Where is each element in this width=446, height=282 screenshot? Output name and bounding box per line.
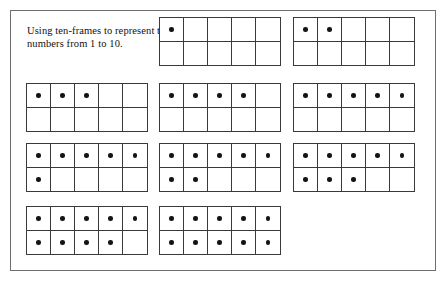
- dot-cell-filled[interactable]: [256, 231, 280, 254]
- dot-cell-filled[interactable]: [294, 18, 318, 41]
- ten-frame-2[interactable]: [293, 17, 415, 66]
- dot-cell-filled[interactable]: [342, 84, 366, 107]
- dot-cell-filled[interactable]: [318, 168, 342, 191]
- dot-cell-filled[interactable]: [184, 207, 208, 230]
- dot-cell-empty[interactable]: [232, 42, 256, 65]
- dot-cell-filled[interactable]: [232, 144, 256, 167]
- dot-cell-empty[interactable]: [342, 18, 366, 41]
- dot-cell-empty[interactable]: [160, 108, 184, 131]
- dot-cell-empty[interactable]: [366, 18, 390, 41]
- ten-frame-7[interactable]: [159, 143, 281, 192]
- dot-cell-empty[interactable]: [390, 168, 414, 191]
- dot-cell-filled[interactable]: [75, 84, 99, 107]
- dot-cell-filled[interactable]: [208, 231, 232, 254]
- ten-frame-8[interactable]: [293, 143, 415, 192]
- dot-cell-filled[interactable]: [184, 144, 208, 167]
- dot-cell-empty[interactable]: [75, 108, 99, 131]
- dot-cell-empty[interactable]: [342, 108, 366, 131]
- dot-cell-filled[interactable]: [27, 84, 51, 107]
- ten-frame-9[interactable]: [26, 206, 148, 255]
- dot-cell-empty[interactable]: [366, 168, 390, 191]
- dot-cell-filled[interactable]: [256, 144, 280, 167]
- dot-cell-empty[interactable]: [27, 108, 51, 131]
- dot-cell-filled[interactable]: [27, 207, 51, 230]
- ten-frame-10[interactable]: [159, 206, 281, 255]
- dot-cell-empty[interactable]: [232, 168, 256, 191]
- dot-cell-filled[interactable]: [184, 231, 208, 254]
- dot-cell-empty[interactable]: [184, 42, 208, 65]
- dot-cell-filled[interactable]: [342, 144, 366, 167]
- dot-cell-empty[interactable]: [99, 84, 123, 107]
- dot-cell-filled[interactable]: [208, 144, 232, 167]
- dot-cell-filled[interactable]: [160, 231, 184, 254]
- dot-cell-filled[interactable]: [366, 144, 390, 167]
- dot-cell-filled[interactable]: [208, 207, 232, 230]
- dot-cell-filled[interactable]: [232, 231, 256, 254]
- dot-cell-empty[interactable]: [184, 18, 208, 41]
- dot-cell-filled[interactable]: [27, 231, 51, 254]
- dot-cell-empty[interactable]: [208, 42, 232, 65]
- dot-cell-empty[interactable]: [366, 108, 390, 131]
- dot-cell-filled[interactable]: [390, 144, 414, 167]
- dot-cell-filled[interactable]: [232, 207, 256, 230]
- dot-cell-filled[interactable]: [160, 84, 184, 107]
- dot-cell-filled[interactable]: [27, 144, 51, 167]
- dot-cell-empty[interactable]: [256, 108, 280, 131]
- dot-cell-empty[interactable]: [123, 231, 147, 254]
- dot-cell-empty[interactable]: [342, 42, 366, 65]
- dot-cell-filled[interactable]: [184, 84, 208, 107]
- dot-cell-empty[interactable]: [294, 108, 318, 131]
- dot-cell-empty[interactable]: [99, 108, 123, 131]
- dot-cell-filled[interactable]: [294, 84, 318, 107]
- dot-cell-filled[interactable]: [318, 144, 342, 167]
- dot-cell-filled[interactable]: [256, 207, 280, 230]
- dot-cell-empty[interactable]: [123, 168, 147, 191]
- dot-cell-filled[interactable]: [51, 84, 75, 107]
- ten-frame-1[interactable]: [159, 17, 281, 66]
- dot-cell-filled[interactable]: [51, 231, 75, 254]
- dot-cell-empty[interactable]: [390, 18, 414, 41]
- dot-cell-filled[interactable]: [160, 144, 184, 167]
- dot-cell-filled[interactable]: [318, 84, 342, 107]
- dot-cell-filled[interactable]: [366, 84, 390, 107]
- dot-cell-filled[interactable]: [318, 18, 342, 41]
- dot-cell-empty[interactable]: [232, 18, 256, 41]
- dot-cell-filled[interactable]: [27, 168, 51, 191]
- dot-cell-empty[interactable]: [390, 42, 414, 65]
- dot-cell-empty[interactable]: [51, 168, 75, 191]
- dot-cell-empty[interactable]: [294, 42, 318, 65]
- dot-cell-filled[interactable]: [99, 207, 123, 230]
- dot-cell-filled[interactable]: [294, 168, 318, 191]
- dot-cell-empty[interactable]: [366, 42, 390, 65]
- dot-cell-empty[interactable]: [75, 168, 99, 191]
- dot-cell-filled[interactable]: [184, 168, 208, 191]
- dot-cell-empty[interactable]: [256, 18, 280, 41]
- dot-cell-empty[interactable]: [232, 108, 256, 131]
- dot-cell-empty[interactable]: [318, 42, 342, 65]
- dot-cell-filled[interactable]: [232, 84, 256, 107]
- dot-cell-filled[interactable]: [123, 144, 147, 167]
- ten-frame-5[interactable]: [293, 83, 415, 132]
- dot-cell-filled[interactable]: [294, 144, 318, 167]
- dot-cell-filled[interactable]: [99, 231, 123, 254]
- dot-cell-empty[interactable]: [208, 18, 232, 41]
- dot-cell-empty[interactable]: [390, 108, 414, 131]
- dot-cell-filled[interactable]: [75, 231, 99, 254]
- dot-cell-empty[interactable]: [99, 168, 123, 191]
- dot-cell-filled[interactable]: [51, 207, 75, 230]
- dot-cell-empty[interactable]: [123, 84, 147, 107]
- dot-cell-filled[interactable]: [123, 207, 147, 230]
- dot-cell-empty[interactable]: [123, 108, 147, 131]
- dot-cell-filled[interactable]: [342, 168, 366, 191]
- dot-cell-empty[interactable]: [184, 108, 208, 131]
- dot-cell-filled[interactable]: [160, 207, 184, 230]
- dot-cell-filled[interactable]: [75, 144, 99, 167]
- dot-cell-filled[interactable]: [51, 144, 75, 167]
- dot-cell-empty[interactable]: [51, 108, 75, 131]
- dot-cell-empty[interactable]: [256, 42, 280, 65]
- dot-cell-empty[interactable]: [256, 84, 280, 107]
- dot-cell-empty[interactable]: [318, 108, 342, 131]
- ten-frame-3[interactable]: [26, 83, 148, 132]
- dot-cell-filled[interactable]: [390, 84, 414, 107]
- dot-cell-filled[interactable]: [160, 18, 184, 41]
